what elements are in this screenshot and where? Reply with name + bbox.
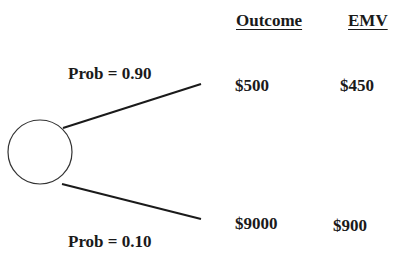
- branch-line-lower: [62, 184, 201, 219]
- branch-emv-upper: $450: [340, 77, 374, 94]
- branch-probability-lower: Prob = 0.10: [68, 233, 152, 250]
- emv-header: EMV: [348, 12, 388, 29]
- branch-outcome-upper: $500: [235, 77, 269, 94]
- chance-node: [8, 120, 72, 184]
- branch-emv-lower: $900: [333, 217, 367, 234]
- branch-outcome-lower: $9000: [235, 215, 278, 232]
- outcome-header: Outcome: [236, 12, 302, 29]
- branch-line-upper: [63, 84, 201, 128]
- branch-probability-upper: Prob = 0.90: [68, 65, 152, 82]
